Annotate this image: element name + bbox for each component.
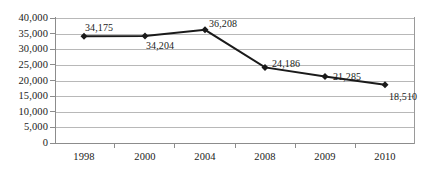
data-label-2008: 24,186 [272,59,300,69]
x-tick-mark [114,144,115,148]
data-label-2009: 21,285 [333,72,361,82]
x-tick-label-2004: 2004 [194,152,215,163]
data-label-2004: 36,208 [209,19,237,29]
x-tick-label-2010: 2010 [374,152,395,163]
marker-point [142,33,149,40]
data-label-2000: 34,204 [146,41,174,51]
x-tick-mark [355,144,356,148]
marker-point [322,73,329,80]
x-tick-label-2009: 2009 [314,152,335,163]
data-label-1998: 34,175 [85,23,113,33]
marker-point [81,33,88,40]
data-label-2010: 18,510 [389,92,417,102]
marker-point [382,81,389,88]
x-tick-mark [235,144,236,148]
x-tick-label-1998: 1998 [73,152,94,163]
x-tick-mark [295,144,296,148]
x-tick-label-2000: 2000 [134,152,155,163]
line-chart: 40,000 35,000 30,000 25,000 20,000 15,00… [0,0,432,189]
x-tick-label-2008: 2008 [254,152,275,163]
x-tick-mark [174,144,175,148]
